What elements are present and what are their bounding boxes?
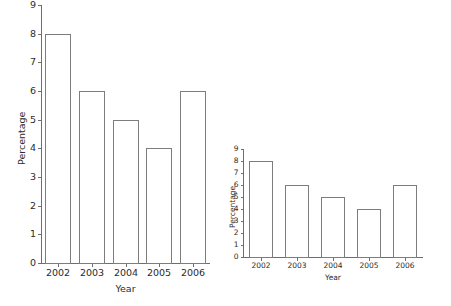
y-tick-label-0: 0 [20, 258, 36, 268]
y-tick-label-6: 6 [20, 86, 36, 96]
y-tick-label-2: 2 [227, 229, 239, 237]
y-tick-6 [38, 91, 41, 92]
x-tick-label-2004: 2004 [315, 262, 351, 270]
figure-two-bar-charts: Percentage Year 012345678920022003200420… [0, 0, 451, 306]
y-tick-1 [241, 245, 244, 246]
y-tick-9 [241, 149, 244, 150]
bar-2002 [45, 34, 71, 264]
y-tick-4 [241, 209, 244, 210]
x-tick-label-2002: 2002 [41, 268, 75, 278]
y-tick-3 [241, 221, 244, 222]
y-tick-label-3: 3 [227, 217, 239, 225]
y-tick-label-9: 9 [20, 0, 36, 10]
bar-chart-right: Percentage Year 012345678920022003200420… [215, 140, 451, 306]
y-tick-label-7: 7 [227, 169, 239, 177]
x-tick-label-2003: 2003 [279, 262, 315, 270]
y-tick-8 [38, 34, 41, 35]
bar-2004 [321, 197, 345, 258]
y-axis-line [243, 149, 244, 258]
x-tick-label-2005: 2005 [142, 268, 176, 278]
y-tick-label-6: 6 [227, 181, 239, 189]
x-axis-title-left: Year [41, 283, 210, 294]
y-tick-5 [38, 120, 41, 121]
bar-2003 [285, 185, 309, 258]
bar-2006 [180, 91, 206, 264]
x-tick-label-2006: 2006 [387, 262, 423, 270]
x-tick-label-2006: 2006 [176, 268, 210, 278]
bar-2006 [393, 185, 417, 258]
y-tick-label-8: 8 [20, 29, 36, 39]
y-tick-1 [38, 234, 41, 235]
y-tick-label-4: 4 [227, 205, 239, 213]
x-tick-label-2002: 2002 [243, 262, 279, 270]
y-tick-label-0: 0 [227, 253, 239, 261]
y-tick-2 [241, 233, 244, 234]
y-tick-2 [38, 206, 41, 207]
bar-2004 [113, 120, 139, 264]
y-tick-label-3: 3 [20, 172, 36, 182]
y-tick-6 [241, 185, 244, 186]
y-tick-4 [38, 148, 41, 149]
y-tick-label-1: 1 [227, 241, 239, 249]
y-tick-0 [38, 263, 41, 264]
y-tick-label-7: 7 [20, 57, 36, 67]
y-tick-label-4: 4 [20, 143, 36, 153]
y-tick-5 [241, 197, 244, 198]
bar-2002 [249, 161, 273, 258]
y-tick-3 [38, 177, 41, 178]
y-tick-0 [241, 257, 244, 258]
y-tick-label-9: 9 [227, 145, 239, 153]
bar-2005 [357, 209, 381, 258]
x-axis-title-right: Year [243, 273, 423, 282]
y-tick-7 [38, 62, 41, 63]
y-tick-label-1: 1 [20, 229, 36, 239]
bar-2005 [146, 148, 172, 264]
y-tick-label-5: 5 [227, 193, 239, 201]
y-tick-label-2: 2 [20, 201, 36, 211]
bar-chart-left: Percentage Year 012345678920022003200420… [0, 0, 230, 306]
y-tick-label-8: 8 [227, 157, 239, 165]
x-tick-label-2005: 2005 [351, 262, 387, 270]
y-tick-8 [241, 161, 244, 162]
x-tick-label-2003: 2003 [75, 268, 109, 278]
bar-2003 [79, 91, 105, 264]
x-tick-label-2004: 2004 [109, 268, 143, 278]
y-axis-line [41, 5, 42, 264]
y-tick-9 [38, 5, 41, 6]
y-tick-7 [241, 173, 244, 174]
y-tick-label-5: 5 [20, 115, 36, 125]
